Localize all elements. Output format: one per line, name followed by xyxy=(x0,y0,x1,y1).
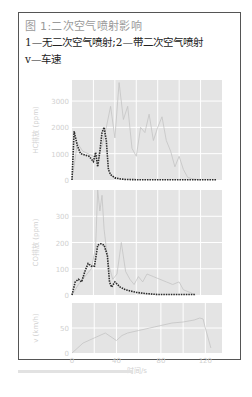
y-axis-label: CO排放 (ppm) xyxy=(31,218,40,266)
y-tick-label: 3000 xyxy=(51,98,69,106)
y-tick-label: 0 xyxy=(65,350,69,358)
panel-bottom: 050v (km/h)04080120时间/s xyxy=(32,303,222,375)
y-tick-label: 100 xyxy=(56,266,69,274)
panel-top: 0100020003000HC排放 (ppm) xyxy=(31,80,222,185)
y-tick-label: 0 xyxy=(65,177,69,185)
y-tick-label: 0 xyxy=(65,292,69,300)
x-tick-label: 120 xyxy=(199,357,212,365)
y-tick-label: 2000 xyxy=(51,124,69,132)
y-axis-label: HC排放 (ppm) xyxy=(31,106,40,154)
x-tick-label: 80 xyxy=(156,357,165,365)
x-tick-label: 0 xyxy=(70,357,74,365)
panel-middle: 0100200300CO排放 (ppm) xyxy=(31,190,222,300)
chart-canvas: 0100020003000HC排放 (ppm)0100200300CO排放 (p… xyxy=(0,0,252,397)
y-axis-label: v (km/h) xyxy=(32,313,40,343)
underline-divider xyxy=(18,370,133,373)
y-tick-label: 300 xyxy=(56,213,69,221)
x-tick-label: 40 xyxy=(112,357,121,365)
y-tick-label: 200 xyxy=(56,240,69,248)
y-tick-label: 50 xyxy=(60,325,69,333)
y-tick-label: 1000 xyxy=(51,151,69,159)
